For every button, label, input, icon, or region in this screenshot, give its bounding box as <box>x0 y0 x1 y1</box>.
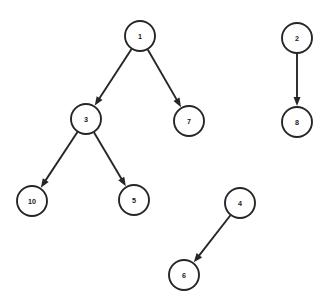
graph-edge-3-to-5 <box>94 132 126 186</box>
node-circle[interactable] <box>282 23 312 53</box>
graph-edge-4-to-6 <box>194 215 231 262</box>
node-circle[interactable] <box>119 185 149 215</box>
node-circle[interactable] <box>282 107 312 137</box>
edge-line <box>45 132 78 181</box>
graph-diagram-canvas: 1371052846 <box>0 0 329 305</box>
edge-line <box>198 215 230 256</box>
graph-edge-2-to-8 <box>294 54 301 107</box>
edge-arrowhead <box>173 98 181 108</box>
graph-svg: 1371052846 <box>0 0 329 305</box>
graph-node-3[interactable]: 3 <box>71 104 101 134</box>
edge-arrowhead <box>95 96 103 105</box>
node-circle[interactable] <box>125 21 155 51</box>
graph-node-8[interactable]: 8 <box>282 107 312 137</box>
node-circle[interactable] <box>174 106 204 136</box>
graph-node-5[interactable]: 5 <box>119 185 149 215</box>
graph-edge-3-to-10 <box>41 132 78 188</box>
edge-arrowhead <box>118 177 126 187</box>
node-circle[interactable] <box>225 188 255 218</box>
node-circle[interactable] <box>17 186 47 216</box>
edge-line <box>148 49 178 100</box>
graph-node-4[interactable]: 4 <box>225 188 255 218</box>
node-circle[interactable] <box>169 260 199 290</box>
graph-node-2[interactable]: 2 <box>282 23 312 53</box>
graph-node-7[interactable]: 7 <box>174 106 204 136</box>
edge-arrowhead <box>294 97 301 106</box>
node-circle[interactable] <box>71 104 101 134</box>
graph-edge-1-to-7 <box>148 49 181 107</box>
edge-line <box>99 49 132 99</box>
graph-edge-1-to-3 <box>95 49 132 106</box>
edge-arrowhead <box>41 178 49 187</box>
graph-node-6[interactable]: 6 <box>169 260 199 290</box>
graph-node-10[interactable]: 10 <box>17 186 47 216</box>
graph-node-1[interactable]: 1 <box>125 21 155 51</box>
edge-line <box>94 132 122 179</box>
edges-layer <box>41 49 301 262</box>
